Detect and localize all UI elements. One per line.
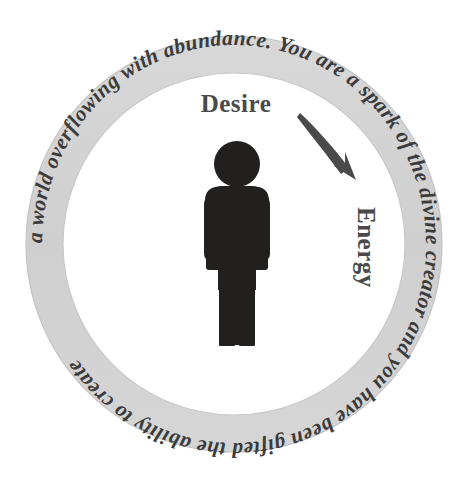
diagram-canvas: a world overflowing with abundance. You …: [0, 0, 466, 480]
circle-diagram: a world overflowing with abundance. You …: [0, 0, 466, 480]
pictogram-chest: [206, 196, 268, 270]
pictogram-right-leg: [239, 262, 255, 346]
label-energy: Energy: [353, 207, 380, 288]
pictogram-shoulders: [206, 186, 268, 205]
label-desire: Desire: [201, 90, 272, 117]
pictogram-head: [214, 141, 260, 187]
pictogram-left-leg: [219, 262, 235, 346]
